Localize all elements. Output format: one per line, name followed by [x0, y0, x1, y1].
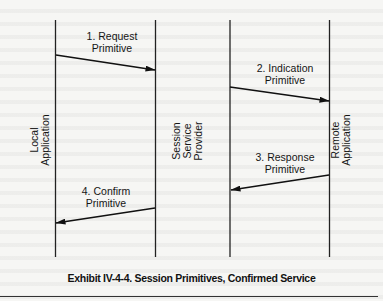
bottom-divider	[0, 296, 378, 297]
lifeline-label-local-application: Local Application	[29, 105, 53, 175]
arrow-confirm-primitive	[56, 208, 155, 223]
message-label-line1: 4. Confirm	[66, 186, 146, 198]
message-label-line2: Primitive	[66, 198, 146, 210]
arrow-request-primitive	[56, 55, 155, 70]
message-label-line1: 2. Indication	[245, 63, 325, 75]
lifeline-label-line: Application	[40, 105, 51, 175]
exhibit-caption: Exhibit IV-4-4. Session Primitives, Conf…	[0, 272, 383, 284]
message-label-line1: 1. Request	[72, 31, 152, 43]
lifeline-label-line: Provider	[193, 111, 204, 171]
message-label-line2: Primitive	[72, 43, 152, 55]
message-label-indication: 2. Indication Primitive	[245, 63, 325, 86]
message-label-confirm: 4. Confirm Primitive	[66, 186, 146, 209]
message-label-line1: 3. Response	[245, 152, 325, 164]
message-label-line2: Primitive	[245, 164, 325, 176]
message-label-line2: Primitive	[245, 75, 325, 87]
message-label-request: 1. Request Primitive	[72, 31, 152, 54]
lifeline-label-line: Application	[341, 105, 352, 175]
arrow-response-primitive	[231, 175, 329, 190]
arrow-indication-primitive	[230, 87, 329, 101]
lifeline-label-remote-application: Remote Application	[330, 105, 354, 175]
lifeline-label-session-service-provider: Session Service Provider	[171, 111, 205, 171]
message-label-response: 3. Response Primitive	[245, 152, 325, 175]
